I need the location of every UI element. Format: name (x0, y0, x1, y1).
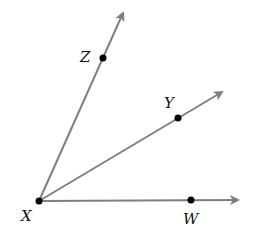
label-x: X (20, 207, 33, 225)
point-z (100, 55, 107, 62)
label-y: Y (164, 94, 176, 112)
angle-diagram: X Z Y W (0, 0, 259, 240)
ray-xy (39, 92, 222, 201)
point-y (175, 115, 182, 122)
label-w: W (183, 210, 200, 228)
point-x (36, 198, 43, 205)
point-w (188, 197, 195, 204)
ray-xw (39, 200, 238, 201)
ray-xz (39, 13, 123, 201)
label-z: Z (79, 48, 91, 66)
